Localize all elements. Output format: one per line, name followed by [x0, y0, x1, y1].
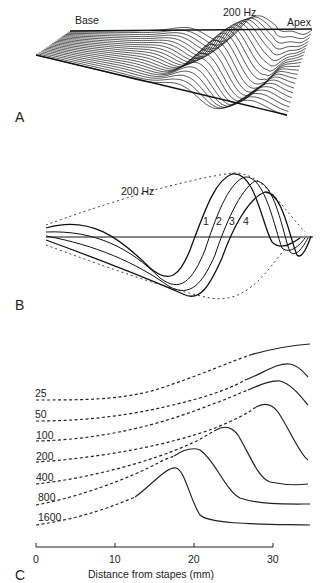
phase-label-3: 3 [229, 215, 235, 227]
x-tick-20: 20 [188, 553, 200, 565]
panel-c [36, 344, 310, 547]
label-200hz-b: 200 Hz [121, 185, 154, 197]
curve-label-800: 800 [38, 491, 56, 503]
curve-label-200: 200 [36, 450, 54, 462]
phase-label-4: 4 [243, 215, 249, 227]
phase-label-2: 2 [216, 215, 222, 227]
wave-line [52, 40, 299, 88]
curve-label-50: 50 [35, 408, 47, 420]
figure-canvas: Base 200 Hz Apex A 200 Hz 1 2 3 4 B [0, 0, 327, 583]
curve-labels: 25 50 100 200 400 800 1600 [35, 387, 62, 523]
curve-label-100: 100 [36, 429, 54, 441]
panel-a [36, 16, 312, 116]
x-axis-label: Distance from stapes (mm) [88, 568, 214, 580]
x-tick-30: 30 [267, 553, 279, 565]
panel-letter-c: C [15, 567, 25, 583]
panel-letter-b: B [15, 297, 24, 313]
label-200hz-a: 200 Hz [223, 6, 256, 18]
x-tick-0: 0 [33, 553, 39, 565]
phase-label-1: 1 [203, 215, 209, 227]
label-base: Base [75, 14, 99, 26]
wave-line [67, 18, 310, 48]
wave-line [41, 52, 291, 107]
curve-label-1600: 1600 [38, 511, 62, 523]
panel-letter-a: A [15, 109, 25, 125]
label-apex: Apex [287, 16, 312, 28]
x-tick-10: 10 [109, 553, 121, 565]
wave-line [44, 49, 293, 103]
curve-label-25: 25 [35, 387, 47, 399]
curve-label-400: 400 [36, 471, 54, 483]
panel-b [46, 173, 313, 299]
